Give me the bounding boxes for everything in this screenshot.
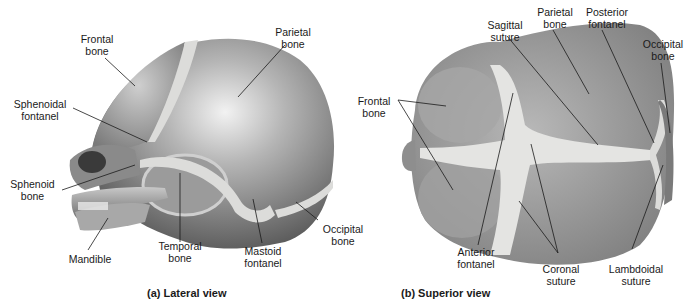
label-sphenoidal-fontanel: Sphenoidal fontanel [10, 98, 70, 122]
label-frontal-bone-lateral: Frontal bone [72, 33, 122, 57]
label-sphenoid-bone: Sphenoid bone [5, 178, 60, 202]
label-sagittal-suture: Sagittal suture [480, 19, 530, 43]
label-frontal-bone-superior: Frontal bone [352, 95, 396, 119]
caption-lateral-view: (a) Lateral view [147, 287, 226, 299]
superior-skull [402, 23, 674, 265]
label-coronal-suture: Coronal suture [536, 263, 586, 287]
label-occipital-bone-superior: Occipital bone [638, 38, 688, 62]
infant-skull-figure: Frontal bone Parietal bone Sphenoidal fo… [0, 0, 691, 305]
label-anterior-fontanel: Anterior fontanel [448, 246, 504, 270]
label-temporal-bone: Temporal bone [152, 240, 208, 264]
label-lambdoidal-suture: Lambdoidal suture [604, 263, 668, 287]
label-mastoid-fontanel: Mastoid fontanel [238, 245, 288, 269]
label-occipital-bone-lateral: Occipital bone [318, 223, 368, 247]
label-parietal-bone-superior: Parietal bone [530, 6, 580, 30]
label-mandible: Mandible [62, 253, 118, 265]
label-parietal-bone-lateral: Parietal bone [268, 26, 318, 50]
caption-superior-view: (b) Superior view [401, 287, 490, 299]
label-posterior-fontanel: Posterior fontanel [580, 6, 634, 30]
lateral-skull [70, 39, 334, 249]
